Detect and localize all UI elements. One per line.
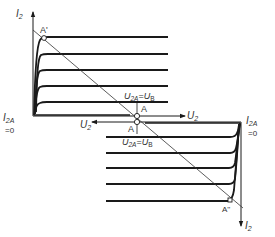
lower-curve-5 [106,124,239,201]
diagram-canvas: I2 A' U2 I2A =0 A U2A=UB U2 I2 I2A =0 A'… [0,0,275,237]
load-line [33,30,243,208]
lower-curve-4 [106,124,239,184]
upper-curve-1 [34,37,168,115]
lower-curve-1 [106,123,240,137]
upper-y-axis-label: I2 [16,8,23,20]
lower-point-a [134,119,139,124]
upper-x-axis-label: U2 [187,110,198,122]
upper-origin-eq: =0 [5,126,15,135]
upper-curve-2 [36,54,168,112]
upper-point-a [134,113,139,118]
lower-point-a-label: A [128,124,134,134]
upper-field: I2 A' U2 I2A =0 A U2A=UB [3,8,198,135]
lower-op-condition: U2A=UB [122,137,153,148]
lower-y-axis-label: I2 [245,220,252,232]
characteristic-diagram: I2 A' U2 I2A =0 A U2A=UB U2 I2 I2A =0 A'… [0,0,275,237]
lower-curves [106,123,240,201]
upper-point-a-label: A [141,104,147,114]
lower-x-axis-label: U2 [80,119,91,131]
upper-op-condition: U2A=UB [124,91,155,102]
upper-curve-5 [35,102,168,114]
point-a-double-prime-label: A'' [222,205,231,214]
upper-curve-3 [35,70,168,110]
upper-curves [34,37,168,115]
point-a-prime [42,36,47,41]
lower-origin-label: I2A [246,115,258,127]
point-a-double-prime [228,198,232,202]
point-a-prime-label: A' [40,25,48,35]
lower-field: U2 I2 I2A =0 A'' A U2A=UB [80,115,258,232]
lower-origin-eq: =0 [248,129,258,138]
upper-origin-label: I2A [3,112,15,124]
